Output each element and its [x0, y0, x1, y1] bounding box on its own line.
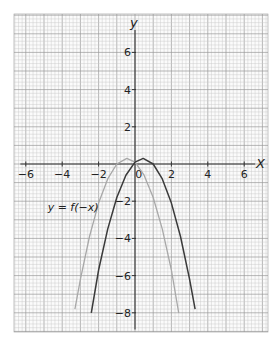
x-tick-label: −6	[18, 168, 34, 181]
x-tick-label: 2	[168, 168, 175, 181]
y-axis-label: y	[129, 15, 138, 30]
graph-chart: −6−4−20246 −8−6−4−2246 X y y = f(−x)	[0, 0, 277, 345]
y-tick-label: 2	[124, 121, 131, 134]
y-tick-label: −4	[115, 232, 131, 245]
curve-label-f-negative-x: y = f(−x)	[47, 201, 99, 214]
y-tick-label: 6	[124, 46, 131, 59]
y-tick-label: −6	[115, 270, 131, 283]
x-tick-label: −2	[90, 168, 106, 181]
y-tick-label: −8	[115, 307, 131, 320]
x-tick-label: 6	[241, 168, 248, 181]
x-tick-label: 4	[204, 168, 211, 181]
x-axis-label: X	[255, 156, 266, 171]
x-tick-label: −4	[54, 168, 70, 181]
y-tick-label: 4	[124, 84, 131, 97]
